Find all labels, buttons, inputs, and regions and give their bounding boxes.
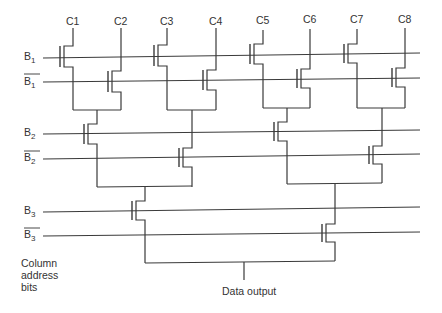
- label-c8: C8: [398, 13, 412, 25]
- level2-transistors: [84, 108, 382, 187]
- label-c6: C6: [303, 13, 317, 25]
- label-b2: B2: [24, 126, 36, 141]
- transistor-c8: [396, 28, 405, 108]
- label-b3: B3: [24, 204, 36, 219]
- transistor-b2-right: [278, 108, 287, 184]
- label-c3: C3: [160, 15, 174, 27]
- line-b2-bar: [43, 154, 420, 159]
- data-output-label: Data output: [222, 285, 276, 297]
- level3-transistors: [132, 184, 335, 280]
- label-c7: C7: [350, 13, 364, 25]
- transistor-c3: [158, 28, 167, 110]
- column-decoder-diagram: C1 C2 C3 C4 C5 C6 C7 C8 B1 B1 B2 B2 B3 B…: [0, 0, 442, 313]
- label-b3-bar: B3: [24, 228, 36, 243]
- svg-text:Column: Column: [21, 257, 57, 269]
- label-c1: C1: [66, 15, 80, 27]
- line-b3: [43, 207, 420, 212]
- line-b3-bar: [43, 232, 420, 236]
- line-b2: [43, 130, 420, 134]
- transistor-b2bar-left: [183, 110, 192, 187]
- transistor-b2bar-right: [373, 108, 382, 183]
- line-b1-bar: [43, 78, 420, 82]
- line-b1: [43, 53, 420, 58]
- transistor-c2: [112, 28, 121, 110]
- label-c5: C5: [256, 14, 270, 26]
- level1-joins: [73, 108, 405, 110]
- svg-text:bits: bits: [21, 281, 37, 293]
- label-c4: C4: [209, 15, 223, 27]
- label-b2-bar: B2: [24, 151, 36, 166]
- svg-text:address: address: [21, 269, 58, 281]
- transistor-c5: [254, 30, 263, 108]
- address-labels: B1 B1 B2 B2 B3 B3: [24, 50, 40, 243]
- transistor-c6: [301, 29, 310, 108]
- address-lines: [43, 53, 420, 236]
- label-b1: B1: [24, 50, 36, 65]
- transistor-c1: [64, 28, 73, 110]
- column-labels: C1 C2 C3 C4 C5 C6 C7 C8: [66, 13, 412, 27]
- transistor-b3: [136, 186, 145, 263]
- label-c2: C2: [114, 15, 128, 27]
- transistor-b2-left: [88, 110, 97, 187]
- transistor-b3bar: [326, 184, 335, 261]
- column-address-bits-label: Column address bits: [21, 257, 58, 293]
- level1-transistors: [60, 28, 405, 110]
- transistor-c4: [207, 28, 216, 110]
- label-b1-bar: B1: [24, 75, 36, 90]
- transistor-c7: [348, 29, 357, 108]
